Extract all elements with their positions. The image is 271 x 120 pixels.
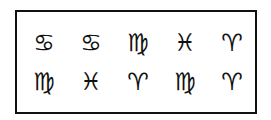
cancer-icon: ♋︎ xyxy=(24,26,64,60)
pisces-icon: ♓︎ xyxy=(165,26,205,60)
aries-icon: ♈︎ xyxy=(212,65,252,99)
pisces-icon: ♓︎ xyxy=(71,65,111,99)
aries-icon: ♈︎ xyxy=(212,26,252,60)
aries-icon: ♈︎ xyxy=(118,65,158,99)
symbol-grid-box: ♋︎ ♋︎ ♍︎ ♓︎ ♈︎ ♍︎ ♓︎ ♈︎ ♍︎ ♈︎ xyxy=(15,10,257,114)
cancer-icon: ♋︎ xyxy=(71,26,111,60)
virgo-icon: ♍︎ xyxy=(118,26,158,60)
virgo-icon: ♍︎ xyxy=(165,65,205,99)
virgo-icon: ♍︎ xyxy=(24,65,64,99)
